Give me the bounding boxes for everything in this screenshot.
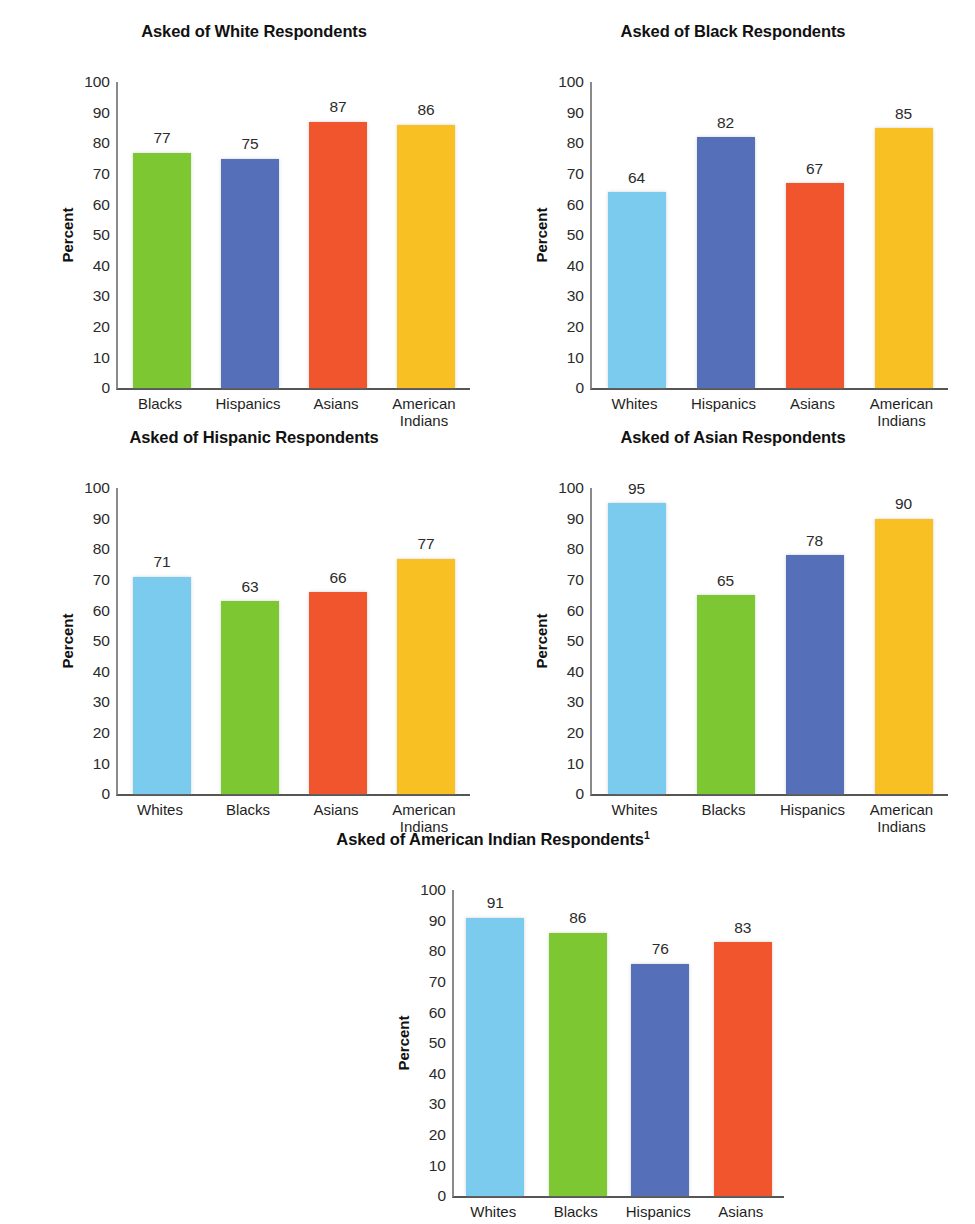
chart-title-text: Asked of Asian Respondents — [620, 428, 845, 446]
x-axis-label: Whites — [590, 396, 679, 430]
bar[interactable] — [221, 159, 279, 389]
y-tick-label: 60 — [567, 197, 584, 213]
y-tick-label: 70 — [93, 572, 110, 588]
y-axis-ticks-black-respondents: 1009080706050403020100 — [550, 82, 584, 388]
y-tick-label: 50 — [93, 633, 110, 649]
y-tick-label: 0 — [575, 786, 584, 802]
bar-slot: 77 — [397, 488, 455, 794]
plot-wrapper-black-respondents: Percent100908070605040302010064826785Whi… — [508, 40, 958, 444]
y-tick-label: 0 — [575, 380, 584, 396]
bar-value-label: 82 — [717, 115, 734, 131]
y-axis-ticks-white-respondents: 1009080706050403020100 — [76, 82, 110, 388]
bar-value-label: 85 — [895, 106, 912, 122]
bar[interactable] — [786, 555, 844, 794]
y-tick-label: 70 — [429, 974, 446, 990]
x-axis-label: Blacks — [116, 396, 204, 430]
bar-value-label: 64 — [628, 170, 645, 186]
bar-slot: 75 — [221, 82, 279, 388]
plot-area-white-respondents: 77758786 — [116, 82, 470, 390]
y-tick-label: 80 — [429, 944, 446, 960]
y-tick-label: 80 — [93, 136, 110, 152]
y-tick-label: 60 — [93, 197, 110, 213]
bar[interactable] — [466, 918, 524, 1196]
chart-title-text: Asked of Black Respondents — [621, 22, 846, 40]
y-tick-label: 50 — [93, 227, 110, 243]
x-axis-label: American Indians — [857, 802, 946, 836]
y-axis-label-asian-respondents: Percent — [533, 614, 550, 669]
bar-slot: 67 — [786, 82, 844, 388]
y-tick-label: 60 — [567, 603, 584, 619]
bar-group-white-respondents: 77758786 — [118, 82, 470, 388]
bar-value-label: 63 — [241, 579, 258, 595]
bar-value-label: 86 — [569, 910, 586, 926]
bar-slot: 86 — [549, 890, 607, 1196]
bar-value-label: 71 — [153, 554, 170, 570]
bar[interactable] — [714, 942, 772, 1196]
bar[interactable] — [133, 153, 191, 389]
x-axis-labels-black-respondents: WhitesHispanicsAsiansAmerican Indians — [590, 396, 946, 430]
bar-slot: 82 — [697, 82, 755, 388]
bar-slot: 90 — [875, 488, 933, 794]
bar[interactable] — [221, 601, 279, 794]
chart-title-hispanic-respondents: Asked of Hispanic Respondents — [34, 428, 474, 446]
bar-slot: 78 — [786, 488, 844, 794]
plot-area-hispanic-respondents: 71636677 — [116, 488, 470, 796]
plot-wrapper-white-respondents: Percent100908070605040302010077758786Bla… — [34, 40, 474, 444]
y-tick-label: 70 — [567, 572, 584, 588]
plot-area-asian-respondents: 95657890 — [590, 488, 948, 796]
chart-title-text: Asked of American Indian Respondents — [336, 830, 644, 848]
y-tick-label: 100 — [84, 74, 110, 90]
bar-slot: 95 — [608, 488, 666, 794]
y-tick-label: 50 — [567, 227, 584, 243]
bar-value-label: 77 — [417, 536, 434, 552]
y-tick-label: 20 — [567, 725, 584, 741]
bar[interactable] — [697, 595, 755, 794]
y-tick-label: 40 — [93, 664, 110, 680]
bar[interactable] — [397, 559, 455, 795]
bar[interactable] — [631, 964, 689, 1197]
y-tick-label: 30 — [429, 1097, 446, 1113]
x-axis-label: Hispanics — [679, 396, 768, 430]
y-tick-label: 10 — [429, 1158, 446, 1174]
y-tick-label: 10 — [567, 756, 584, 772]
bar-value-label: 86 — [417, 102, 434, 118]
bar-value-label: 65 — [717, 573, 734, 589]
bar-value-label: 91 — [487, 895, 504, 911]
y-tick-label: 90 — [567, 511, 584, 527]
y-tick-label: 70 — [93, 166, 110, 182]
bar-value-label: 66 — [329, 570, 346, 586]
bar-slot: 91 — [466, 890, 524, 1196]
y-tick-label: 50 — [429, 1035, 446, 1051]
bar[interactable] — [875, 519, 933, 794]
y-axis-label-black-respondents: Percent — [533, 208, 550, 263]
bar-value-label: 78 — [806, 533, 823, 549]
bar[interactable] — [608, 503, 666, 794]
x-axis-label: Whites — [452, 1204, 535, 1221]
bar-value-label: 95 — [628, 481, 645, 497]
chart-panel-black-respondents: Asked of Black RespondentsPercent1009080… — [508, 22, 958, 444]
bar[interactable] — [786, 183, 844, 388]
chart-panel-white-respondents: Asked of White RespondentsPercent1009080… — [34, 22, 474, 444]
y-tick-label: 100 — [84, 480, 110, 496]
bar[interactable] — [397, 125, 455, 388]
bar-group-asian-respondents: 95657890 — [592, 488, 948, 794]
x-axis-label: Hispanics — [617, 1204, 700, 1221]
bar[interactable] — [875, 128, 933, 388]
bar[interactable] — [549, 933, 607, 1196]
bar[interactable] — [608, 192, 666, 388]
y-tick-label: 40 — [567, 664, 584, 680]
bar-value-label: 90 — [895, 496, 912, 512]
bar[interactable] — [697, 137, 755, 388]
bar[interactable] — [309, 592, 367, 794]
bar-value-label: 75 — [241, 136, 258, 152]
y-tick-label: 100 — [558, 74, 584, 90]
chart-title-white-respondents: Asked of White Respondents — [34, 22, 474, 40]
bar-value-label: 76 — [652, 941, 669, 957]
bar-slot: 64 — [608, 82, 666, 388]
x-axis-label: Hispanics — [768, 802, 857, 836]
bar[interactable] — [133, 577, 191, 794]
y-tick-label: 90 — [429, 913, 446, 929]
x-axis-labels-white-respondents: BlacksHispanicsAsiansAmerican Indians — [116, 396, 468, 430]
bar[interactable] — [309, 122, 367, 388]
chart-title-text: Asked of White Respondents — [141, 22, 367, 40]
